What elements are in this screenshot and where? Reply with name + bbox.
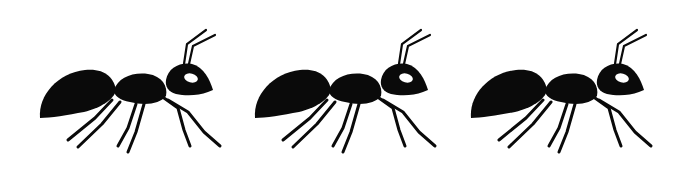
ant-silhouette-2	[215, 0, 445, 184]
ant-icon	[0, 0, 230, 184]
ant-silhouette-3	[431, 0, 661, 184]
ant-silhouette-1	[0, 0, 230, 184]
ant-icon	[431, 0, 661, 184]
ant-icon	[215, 0, 445, 184]
